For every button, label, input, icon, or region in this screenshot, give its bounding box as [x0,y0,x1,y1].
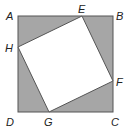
label-C: C [111,116,119,128]
label-E: E [78,3,86,15]
label-B: B [116,10,123,22]
label-A: A [5,10,13,22]
square-diagram: A E B H F D G C [0,0,128,134]
label-H: H [5,42,13,54]
label-D: D [6,116,14,128]
label-F: F [116,76,124,88]
label-G: G [44,116,53,128]
